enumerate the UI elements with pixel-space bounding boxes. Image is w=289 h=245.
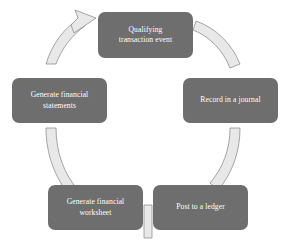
cycle-diagram: Qualifying transaction event Record in a… bbox=[0, 0, 289, 245]
node-generate-financial-statements[interactable]: Generate financial statements bbox=[12, 78, 107, 123]
node-label: Record in a journal bbox=[200, 95, 260, 105]
node-generate-financial-worksheet[interactable]: Generate financial worksheet bbox=[48, 185, 143, 230]
node-post-to-a-ledger[interactable]: Post to a ledger bbox=[153, 185, 248, 230]
connector-post-to-worksheet bbox=[144, 205, 152, 238]
node-qualifying-transaction-event[interactable]: Qualifying transaction event bbox=[98, 12, 193, 58]
connector-qualifying-to-record bbox=[193, 21, 240, 68]
node-label: Generate financial statements bbox=[31, 90, 89, 110]
connector-record-to-post bbox=[210, 128, 240, 190]
connector-arrowhead-icon bbox=[71, 10, 96, 33]
node-record-in-a-journal[interactable]: Record in a journal bbox=[183, 78, 278, 123]
node-label: Post to a ledger bbox=[176, 202, 225, 212]
node-label: Qualifying transaction event bbox=[119, 25, 172, 45]
node-label: Generate financial worksheet bbox=[67, 197, 125, 217]
